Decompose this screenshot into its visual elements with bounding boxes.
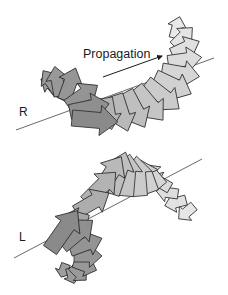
circular-polarization-diagram: Propagation R L xyxy=(0,0,228,295)
right-helix-label: R xyxy=(19,106,28,118)
left-circular-helix xyxy=(38,148,201,287)
helix-figure xyxy=(0,0,228,295)
propagation-label: Propagation xyxy=(83,48,150,61)
right-circular-helix xyxy=(35,14,204,137)
left-helix-label: L xyxy=(19,231,26,243)
